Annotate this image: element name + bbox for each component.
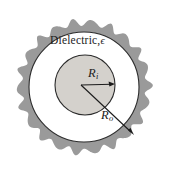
inner-radius-subscript: i: [96, 71, 99, 81]
dielectric-label: Dielectric,ϵ: [50, 34, 105, 46]
permittivity-symbol: ϵ: [100, 35, 104, 46]
inner-radius-label: Ri: [88, 66, 98, 81]
coax-diagram-svg: [0, 0, 171, 171]
coax-cross-section-figure: Dielectric,ϵ Ri Ro: [0, 0, 171, 171]
inner-radius-letter: R: [88, 66, 96, 80]
outer-radius-label: Ro: [101, 108, 113, 123]
outer-radius-letter: R: [101, 108, 109, 122]
dielectric-label-text: Dielectric,: [50, 34, 100, 46]
outer-radius-subscript: o: [109, 113, 114, 123]
